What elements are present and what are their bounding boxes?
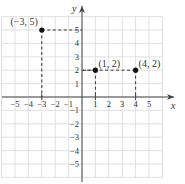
y-tick-label: −5: [70, 159, 79, 169]
x-tick-label: 3: [120, 99, 124, 109]
y-tick-label: 2: [75, 65, 79, 75]
coordinate-plane: xy −5−4−3−2−112345−5−4−3−2−112345 (−3, 5…: [0, 0, 185, 184]
y-tick-label: 1: [75, 79, 79, 89]
point-label: (4, 2): [139, 58, 161, 70]
x-axis-label: x: [170, 100, 176, 111]
y-tick-label: 3: [75, 52, 79, 62]
data-points: (−3, 5)(1, 2)(4, 2): [10, 16, 160, 73]
x-tick-label: 4: [133, 99, 138, 109]
y-tick-label: −1: [70, 105, 79, 115]
x-tick-label: 5: [147, 99, 151, 109]
y-axis-label: y: [71, 3, 77, 14]
x-tick-label: 2: [107, 99, 111, 109]
x-tick-label: −4: [24, 99, 34, 109]
point-label: (1, 2): [98, 58, 120, 70]
y-tick-label: −2: [70, 119, 79, 129]
data-point: [39, 27, 44, 32]
data-point: [93, 68, 98, 73]
point-label: (−3, 5): [10, 16, 37, 28]
y-tick-label: −4: [70, 146, 80, 156]
y-tick-label: −3: [70, 132, 79, 142]
x-tick-label: −3: [37, 99, 46, 109]
projection-dashes: [42, 30, 136, 100]
y-tick-label: 5: [75, 25, 79, 35]
x-tick-label: −2: [51, 99, 60, 109]
x-tick-label: 1: [93, 99, 97, 109]
x-tick-label: −5: [10, 99, 19, 109]
data-point: [133, 68, 138, 73]
